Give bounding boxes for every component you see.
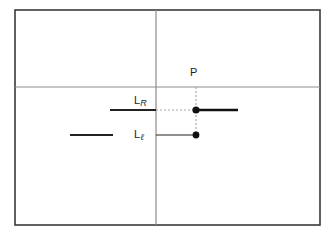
line-label-LR: LR (134, 95, 147, 108)
outer-frame (15, 10, 320, 225)
point-label-P: P (190, 67, 197, 78)
figure-root: P LR Lℓ (0, 0, 336, 237)
line-label-Ll-subscript: ℓ (140, 132, 144, 142)
point-P-upper (192, 106, 199, 113)
point-P-lower (193, 132, 200, 139)
line-label-LR-subscript: R (140, 98, 147, 108)
line-label-Ll: Lℓ (134, 129, 144, 142)
figure-canvas (0, 0, 336, 237)
point-label-P-text: P (190, 66, 197, 78)
